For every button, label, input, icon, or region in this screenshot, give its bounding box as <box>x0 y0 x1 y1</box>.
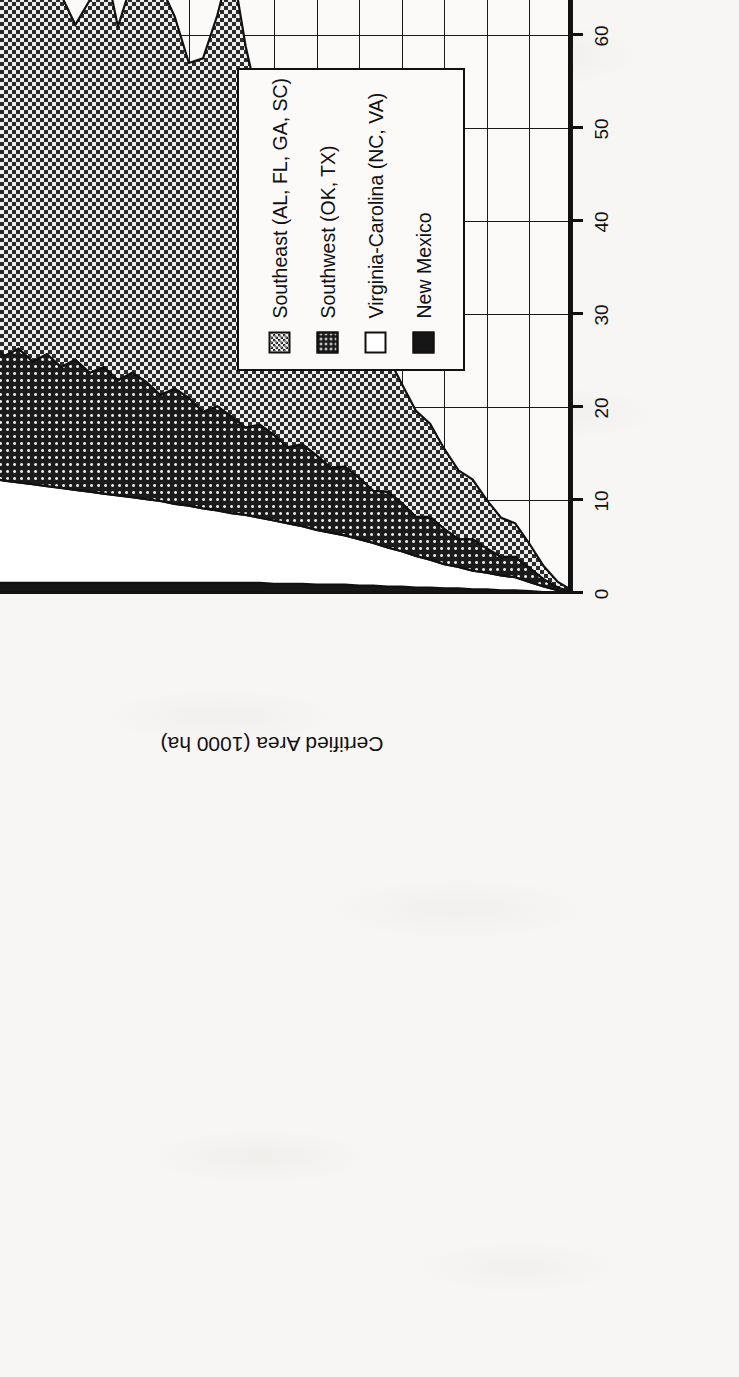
legend-item-label: Virginia-Carolina (NC, VA) <box>365 92 386 318</box>
legend-item-label: Southeast (AL, FL, GA, SC) <box>269 77 290 318</box>
value-axis-tick <box>572 312 583 315</box>
gridline-horizontal <box>572 0 573 594</box>
value-axis-label: 20 <box>592 373 611 443</box>
value-axis-label: 40 <box>592 187 611 257</box>
value-axis-tick <box>572 219 583 222</box>
value-axis-tick <box>572 591 583 594</box>
value-axis-tick <box>572 405 583 408</box>
legend: Southeast (AL, FL, GA, SC)Southwest (OK,… <box>237 68 465 371</box>
legend-swatch-icon <box>412 331 434 353</box>
legend-swatch-icon <box>316 331 338 353</box>
legend-item: Virginia-Carolina (NC, VA) <box>364 68 386 353</box>
value-axis-line <box>0 591 572 594</box>
value-axis-label: 30 <box>592 280 611 350</box>
value-axis-label: 50 <box>592 94 611 164</box>
value-axis-tick <box>572 498 583 501</box>
y-axis-label: Certified Area (1000 ha) <box>42 732 502 756</box>
legend-swatch-icon <box>268 331 290 353</box>
value-axis-tick <box>572 126 583 129</box>
legend-items: Southeast (AL, FL, GA, SC)Southwest (OK,… <box>237 68 465 371</box>
value-axis-tick <box>572 33 583 36</box>
category-axis-line <box>568 0 572 594</box>
legend-item: Southwest (OK, TX) <box>316 68 338 353</box>
value-axis-label: 0 <box>592 559 611 629</box>
legend-item-label: Southwest (OK, TX) <box>317 145 338 318</box>
legend-item-label: New Mexico <box>413 212 434 318</box>
value-axis-label: 10 <box>592 466 611 536</box>
legend-item: New Mexico <box>412 68 434 353</box>
value-axis-label: 60 <box>592 1 611 71</box>
legend-item: Southeast (AL, FL, GA, SC) <box>268 68 290 353</box>
legend-swatch-icon <box>364 331 386 353</box>
